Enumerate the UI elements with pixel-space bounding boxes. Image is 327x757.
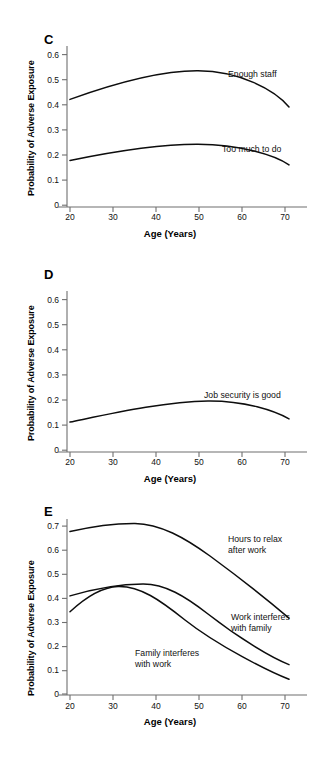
- curve-too-much-to-do: [70, 144, 289, 165]
- panel-c-plot: [0, 0, 327, 245]
- panel-c: C Probability of Adverse Exposure 0.6 0.…: [0, 0, 327, 245]
- panel-e: E Probability of Adverse Exposure 0.7 0.…: [0, 490, 327, 757]
- panel-e-plot: [0, 490, 327, 757]
- curve-family-interferes-with-work: [70, 586, 289, 679]
- curve-job-security-is-good: [70, 401, 289, 422]
- curve-enough-staff: [70, 71, 289, 107]
- curve-hours-to-relax-after-work: [70, 523, 289, 618]
- panel-d: D Probability of Adverse Exposure 0.6 0.…: [0, 245, 327, 490]
- curve-work-interferes-with-family: [70, 584, 289, 665]
- panel-d-plot: [0, 245, 327, 490]
